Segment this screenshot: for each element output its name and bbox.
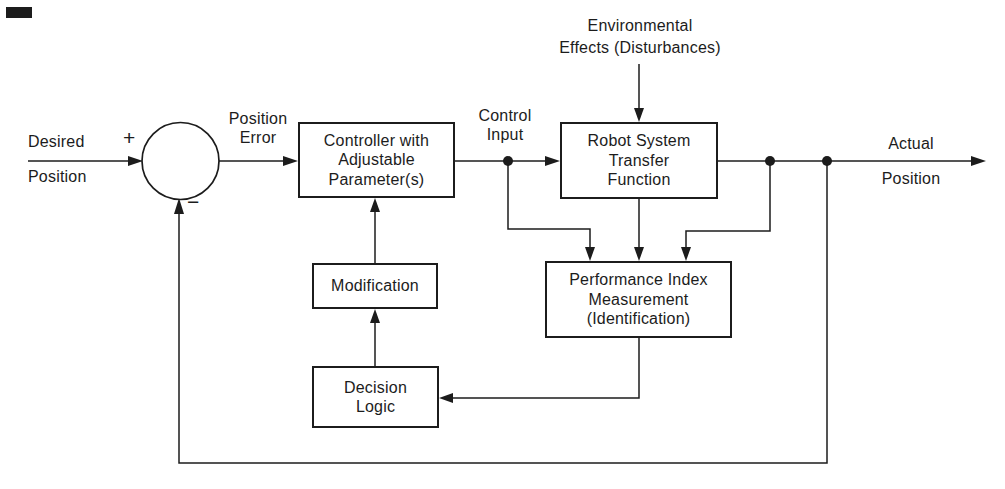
robot-system-block-line2: Transfer	[609, 151, 670, 171]
performance-index-block-line1: Performance Index	[569, 270, 708, 290]
plus-sign: +	[123, 128, 135, 148]
performance-index-block-line2: Measurement	[588, 290, 688, 310]
controller-arrowhead-icon	[370, 198, 380, 212]
block-diagram-canvas: + − Controller with Adjustable Parameter…	[0, 0, 1005, 489]
position-error-label-line2: Error	[215, 128, 301, 147]
summing-junction	[142, 123, 219, 200]
output-arrowhead-icon	[971, 156, 986, 166]
decision-logic-block-line1: Decision	[344, 378, 407, 398]
control-input-label-line1: Control	[470, 106, 540, 125]
controller-block-line1: Controller with	[324, 131, 429, 151]
perf-left-arrowhead-icon	[585, 247, 595, 261]
diagram-wires	[0, 0, 1005, 489]
position-error-label: Position Error	[215, 109, 301, 147]
environmental-effects-label-line2: Effects (Disturbances)	[515, 37, 765, 59]
robot-system-block: Robot System Transfer Function	[560, 122, 718, 199]
error-arrowhead-icon	[283, 156, 298, 166]
disturbance-arrowhead-icon	[634, 108, 644, 122]
minus-sign: −	[187, 192, 199, 212]
actual-position-label-line1: Actual	[870, 134, 952, 153]
modification-block: Modification	[312, 263, 438, 309]
controller-block-line2: Adjustable	[338, 150, 415, 170]
environmental-effects-label: Environmental Effects (Disturbances)	[515, 15, 765, 59]
perf-right-arrowhead-icon	[681, 247, 691, 261]
decision-logic-block-line2: Logic	[356, 397, 395, 417]
actual-position-label-line2: Position	[870, 169, 952, 188]
desired-arrowhead-icon	[128, 156, 143, 166]
performance-index-block-line3: (Identification)	[587, 309, 691, 329]
control-input-label: Control Input	[470, 106, 540, 144]
output-junction-dot-2	[822, 156, 832, 166]
feedback-arrowhead-icon	[174, 198, 184, 214]
environmental-effects-label-line1: Environmental	[515, 15, 765, 37]
controller-block-line3: Parameter(s)	[329, 170, 425, 190]
controller-block: Controller with Adjustable Parameter(s)	[298, 122, 455, 198]
modification-arrowhead-icon	[370, 309, 380, 323]
perf-to-decision-line	[452, 338, 639, 398]
perf-middle-arrowhead-icon	[634, 247, 644, 261]
decision-arrowhead-icon	[439, 393, 453, 403]
robot-system-block-line3: Function	[608, 170, 671, 190]
performance-index-block: Performance Index Measurement (Identific…	[545, 261, 732, 338]
desired-position-label-line1: Desired	[28, 132, 85, 151]
robot-system-block-line1: Robot System	[588, 131, 691, 151]
position-error-label-line1: Position	[215, 109, 301, 128]
modification-block-line1: Modification	[331, 276, 419, 296]
desired-position-label-line2: Position	[28, 167, 87, 186]
control-input-label-line2: Input	[470, 125, 540, 144]
decision-logic-block: Decision Logic	[312, 366, 439, 428]
control-arrowhead-icon	[545, 156, 560, 166]
